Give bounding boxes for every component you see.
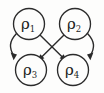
node-rho3-subscript: 3 [32, 70, 37, 80]
edge-rho1-to-rho3-arrowhead [11, 53, 17, 61]
edge-rho1-to-rho3 [10, 34, 17, 61]
node-rho4[interactable]: ρ4 [58, 55, 89, 86]
edge-rho1-to-rho3-line [10, 34, 16, 56]
diagram-graphics: ρ1 ρ2 ρ3 ρ4 [0, 0, 104, 93]
node-rho1-symbol: ρ [21, 15, 30, 33]
node-rho4-subscript: 4 [74, 70, 79, 80]
edge-rho2-to-rho4-arrowhead [87, 53, 93, 61]
diagram-canvas: ρ1 ρ2 ρ3 ρ4 [0, 0, 104, 93]
edge-rho2-to-rho4-line [88, 34, 94, 56]
node-rho3-symbol: ρ [23, 61, 32, 79]
node-rho1[interactable]: ρ1 [14, 9, 45, 40]
node-rho4-symbol: ρ [65, 61, 74, 79]
edge-rho2-to-rho3 [38, 36, 64, 62]
node-rho3[interactable]: ρ3 [16, 55, 47, 86]
node-rho1-subscript: 1 [30, 24, 35, 34]
node-rho2-symbol: ρ [67, 15, 76, 33]
edge-rho1-to-rho4 [41, 36, 67, 62]
node-rho2-subscript: 2 [76, 24, 81, 34]
edge-rho2-to-rho4 [87, 34, 94, 61]
node-rho2[interactable]: ρ2 [60, 9, 91, 40]
